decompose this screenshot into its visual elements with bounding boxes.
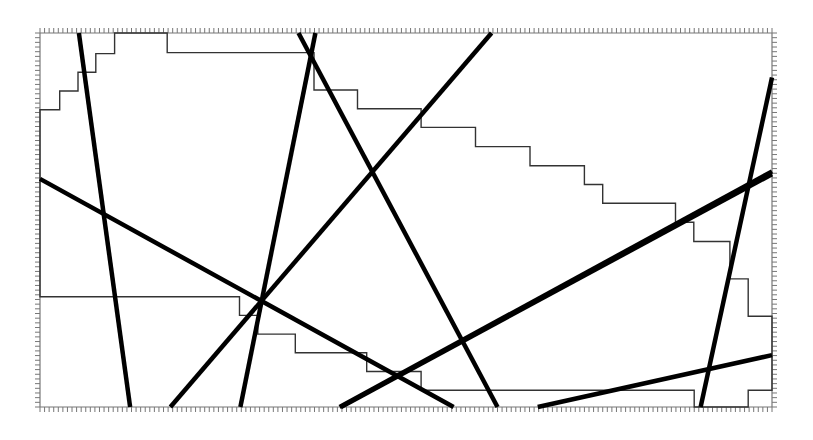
staircase-polygon bbox=[40, 33, 772, 407]
staircase-layer bbox=[40, 33, 772, 407]
thick-line-L8 bbox=[538, 355, 772, 407]
thick-lines-layer bbox=[40, 33, 772, 407]
thick-line-L4 bbox=[240, 33, 315, 407]
line-arrangement-diagram bbox=[0, 0, 813, 440]
border-ticks bbox=[35, 28, 777, 412]
diagram-canvas bbox=[0, 0, 813, 440]
thick-line-L1 bbox=[79, 33, 130, 407]
frame bbox=[40, 33, 772, 407]
